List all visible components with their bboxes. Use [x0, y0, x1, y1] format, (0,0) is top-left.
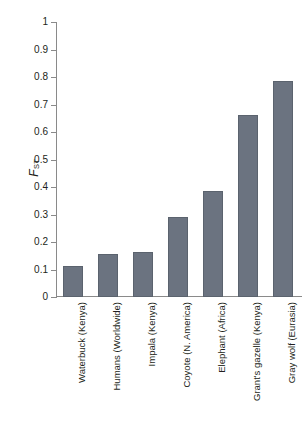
x-category-label: Coyote (N. America): [182, 302, 192, 432]
y-tick-label: 0.5: [34, 155, 48, 165]
x-category-label: Gray wolf (Eurasia): [287, 302, 297, 432]
y-tick-label: 0.3: [34, 210, 48, 220]
y-tick-label: 0.2: [34, 237, 48, 247]
y-tick-mark: [51, 297, 57, 298]
y-tick-label: 0.9: [34, 45, 48, 55]
y-tick-label: 0.7: [34, 100, 48, 110]
bar: [133, 252, 153, 297]
bar: [98, 254, 118, 297]
bar: [168, 217, 188, 297]
y-axis-title-symbol: F: [28, 169, 40, 176]
y-tick-label: 0.1: [34, 265, 48, 275]
y-tick-label: 0.4: [34, 182, 48, 192]
x-category-label: Waterbuck (Kenya): [77, 302, 87, 432]
bar: [273, 81, 293, 297]
x-category-label: Elephant (Africa): [217, 302, 227, 432]
bar-series: [56, 22, 302, 297]
x-category-label: Impala (Kenya): [147, 302, 157, 432]
y-tick-label: 0.6: [34, 127, 48, 137]
x-category-label: Humans (Worldwide): [112, 302, 122, 432]
y-tick-label: 1: [42, 17, 48, 27]
y-tick-label: 0.8: [34, 72, 48, 82]
x-axis-category-labels: Waterbuck (Kenya)Humans (Worldwide)Impal…: [56, 300, 302, 437]
bar: [63, 266, 83, 297]
plot-area: 10.90.80.70.60.50.40.30.20.10: [56, 22, 302, 297]
bar: [238, 115, 258, 297]
y-tick-label: 0: [42, 292, 48, 302]
fst-bar-chart: FST 10.90.80.70.60.50.40.30.20.10 Waterb…: [0, 0, 307, 437]
bar: [203, 191, 223, 297]
x-category-label: Grant's gazelle (Kenya): [252, 302, 262, 432]
